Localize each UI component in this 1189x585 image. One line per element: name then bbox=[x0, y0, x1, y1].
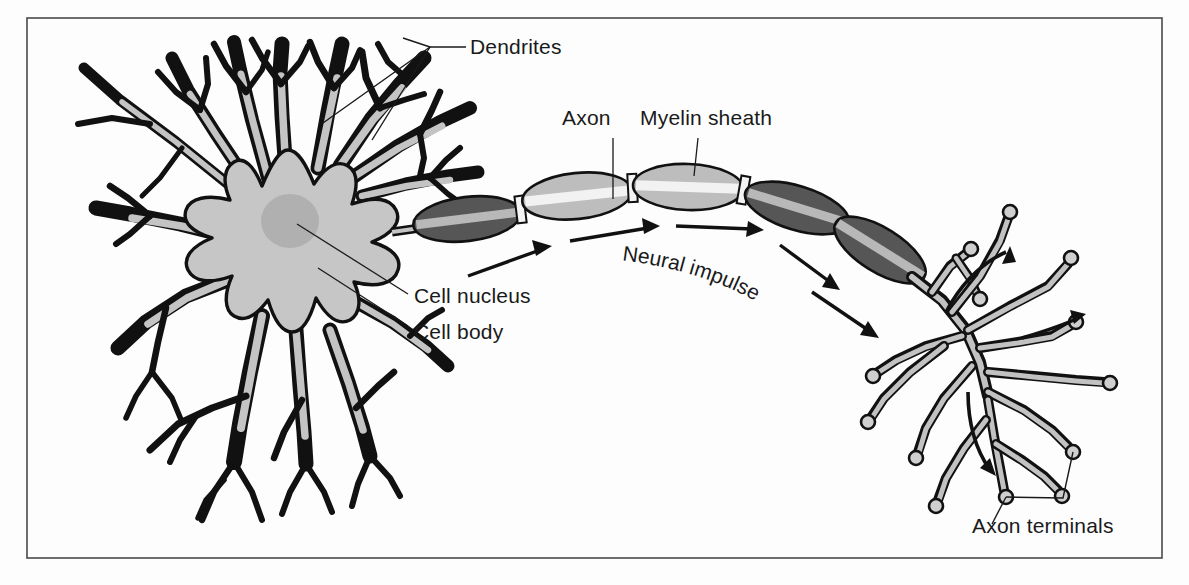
dendrite-branch bbox=[150, 316, 262, 520]
label-axon-terminals: Axon terminals bbox=[972, 514, 1114, 537]
neuron-diagram-svg: Dendrites Axon Myelin sheath Cell nucleu… bbox=[0, 0, 1189, 585]
dendrite-branch bbox=[330, 330, 400, 506]
neural-impulse-arrows bbox=[468, 218, 879, 338]
axon-myelin-group bbox=[392, 162, 936, 296]
dendrite-branch bbox=[352, 92, 470, 178]
label-myelin-sheath: Myelin sheath bbox=[640, 106, 772, 129]
neuron-figure: Dendrites Axon Myelin sheath Cell nucleu… bbox=[0, 0, 1189, 585]
label-cell-body: Cell body bbox=[414, 320, 504, 343]
dendrite-branch bbox=[118, 276, 238, 422]
cell-nucleus-shape bbox=[261, 194, 319, 248]
myelin-segment bbox=[520, 167, 634, 224]
myelin-segment bbox=[411, 191, 524, 248]
dendrite-branch bbox=[214, 42, 268, 178]
dendrite-branch bbox=[274, 330, 332, 514]
myelin-segment bbox=[632, 162, 744, 212]
label-dendrites: Dendrites bbox=[470, 35, 562, 58]
label-axon: Axon bbox=[562, 106, 611, 129]
label-cell-nucleus: Cell nucleus bbox=[414, 284, 531, 307]
label-neural-impulse: Neural impulse bbox=[622, 241, 765, 304]
